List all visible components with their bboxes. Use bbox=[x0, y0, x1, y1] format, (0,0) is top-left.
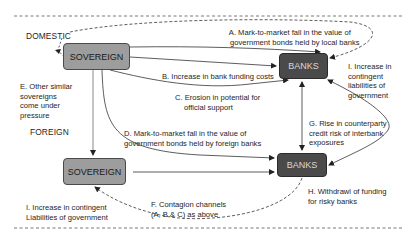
domestic-banks-node: BANKS bbox=[279, 53, 328, 79]
channel-b-arrow bbox=[130, 57, 276, 66]
label-b: B. Increase in bank funding costs bbox=[162, 72, 274, 82]
foreign-label: FOREIGN bbox=[30, 127, 69, 137]
domestic-sovereign-node: SOVEREIGN bbox=[63, 43, 130, 70]
label-d: D. Mark-to-market fall in the value of g… bbox=[124, 129, 261, 148]
label-h: H. Withdrawl of funding for risky banks bbox=[308, 187, 387, 206]
label-a: A. Mark-to-market fall in the value of g… bbox=[220, 28, 360, 47]
channel-a-arrow bbox=[130, 47, 320, 52]
foreign-sovereign-label: SOVEREIGN bbox=[68, 167, 122, 177]
label-e: E. Other similar sovereigns come under p… bbox=[20, 82, 72, 120]
foreign-banks-node: BANKS bbox=[277, 153, 327, 177]
label-i-domestic: I. Increase in contingent liabilities of… bbox=[348, 62, 391, 100]
domestic-banks-label: BANKS bbox=[288, 61, 319, 71]
domestic-label: DOMESTIC bbox=[26, 31, 71, 41]
foreign-sovereign-node: SOVEREIGN bbox=[63, 158, 126, 185]
label-f: F. Contagion channels (A, B & C) as abov… bbox=[151, 200, 226, 219]
domestic-sovereign-label: SOVEREIGN bbox=[70, 52, 124, 62]
label-c: C. Erosion in potential for official sup… bbox=[175, 93, 260, 112]
label-i-foreign: I. Increase in contingent Liabilities of… bbox=[26, 203, 108, 222]
foreign-banks-label: BANKS bbox=[287, 160, 318, 170]
label-g: G. Rise in counterparty credit risk of i… bbox=[309, 119, 387, 148]
